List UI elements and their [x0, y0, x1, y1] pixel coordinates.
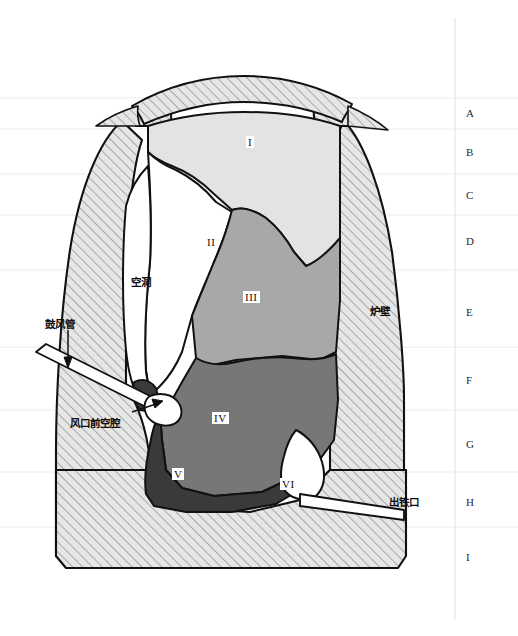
label-furnace-wall: 炉壁 [370, 305, 390, 317]
label-blast-pipe: 鼓风管 [45, 318, 75, 330]
margin-row-H: H [466, 496, 474, 508]
margin-row-I: I [466, 551, 470, 563]
zone-label-IV: IV [212, 412, 229, 424]
label-taphole: 出铁口 [389, 496, 419, 508]
margin-row-D: D [466, 235, 474, 247]
label-cavity: 空洞 [131, 276, 151, 288]
zone-label-III: III [243, 291, 260, 303]
zone-label-II: II [205, 236, 217, 248]
zone-label-V: V [172, 468, 184, 480]
label-raceway-cavity: 风口前空腔 [70, 417, 120, 429]
margin-row-B: B [466, 146, 473, 158]
margin-row-E: E [466, 306, 473, 318]
margin-row-G: G [466, 438, 474, 450]
blast-furnace-diagram [0, 0, 518, 636]
zone-label-VI: VI [280, 478, 297, 490]
figure-page: I II III IV V VI 鼓风管 风口前空腔 空洞 炉壁 出铁口 A B… [0, 0, 518, 636]
margin-row-C: C [466, 189, 473, 201]
zone-label-I: I [246, 136, 254, 148]
raceway-cavity-bulb [145, 394, 182, 426]
margin-row-A: A [466, 107, 474, 119]
margin-row-F: F [466, 374, 472, 386]
